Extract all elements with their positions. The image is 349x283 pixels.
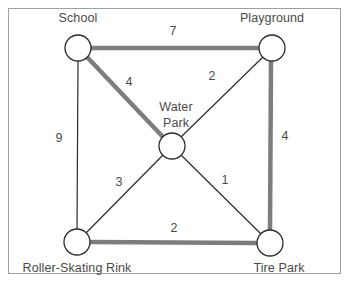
graph-canvas — [0, 0, 349, 283]
edge-weight-school-roller-rink: 9 — [56, 131, 63, 145]
node-label-water-park-line1: Water — [159, 100, 192, 114]
edge-playground-tire-park[interactable] — [270, 61, 271, 230]
graph-figure: School Playground Water Park Roller-Skat… — [0, 0, 349, 283]
edge-weight-water-park-roller-rink: 3 — [116, 175, 123, 189]
node-label-tire-park: Tire Park — [253, 261, 304, 275]
node-label-roller-rink: Roller-Skating Rink — [23, 261, 132, 275]
edge-weight-school-water-park: 4 — [126, 75, 133, 89]
node-roller-rink[interactable] — [64, 229, 90, 255]
node-label-playground: Playground — [240, 11, 304, 25]
node-label-water-park-line2: Park — [163, 116, 189, 130]
node-water-park[interactable] — [159, 133, 185, 159]
edge-weight-playground-tire-park: 4 — [282, 129, 289, 143]
edge-weight-school-playground: 7 — [170, 24, 177, 38]
node-school[interactable] — [65, 35, 91, 61]
edge-weight-roller-rink-tire-park: 2 — [171, 221, 178, 235]
edge-roller-rink-tire-park[interactable] — [90, 242, 257, 243]
node-playground[interactable] — [259, 35, 285, 61]
edge-weight-water-park-tire-park: 1 — [222, 173, 229, 187]
edge-weight-playground-water-park: 2 — [209, 69, 216, 83]
node-label-school: School — [59, 11, 98, 25]
node-tire-park[interactable] — [257, 230, 283, 256]
